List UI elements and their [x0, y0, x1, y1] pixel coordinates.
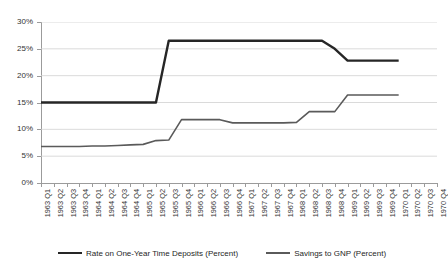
plot-area [41, 22, 437, 183]
x-axis: 1963 Q11963 Q21963 Q31963 Q41964 Q11964 … [41, 184, 438, 242]
series-lines [41, 22, 437, 183]
x-tick-label: 1967 Q2 [261, 189, 269, 217]
y-tick-mark [37, 22, 41, 23]
x-tick-label: 1967 Q4 [287, 189, 295, 217]
x-tick-mark [156, 184, 157, 187]
y-tick-label: 30% [17, 18, 33, 26]
y-tick-mark [37, 183, 41, 184]
x-tick-mark [348, 184, 349, 187]
x-tick-label: 1967 Q3 [274, 189, 282, 217]
legend-label: Rate on One-Year Time Deposits (Percent) [86, 249, 238, 258]
x-tick-mark [437, 184, 438, 187]
x-tick-mark [309, 184, 310, 187]
x-tick-label: 1964 Q2 [108, 189, 116, 217]
x-tick-mark [54, 184, 55, 187]
x-tick-label: 1963 Q4 [82, 189, 90, 217]
y-tick-label: 15% [17, 99, 33, 107]
x-tick-label: 1969 Q3 [376, 189, 384, 217]
y-tick-mark [37, 49, 41, 50]
legend-line-icon [266, 252, 290, 254]
x-tick-label: 1968 Q2 [312, 189, 320, 217]
x-tick-label: 1964 Q1 [95, 189, 103, 217]
x-tick-mark [411, 184, 412, 187]
x-tick-label: 1970 Q1 [402, 189, 410, 217]
x-tick-mark [79, 184, 80, 187]
x-tick-mark [399, 184, 400, 187]
x-tick-mark [233, 184, 234, 187]
x-tick-mark [245, 184, 246, 187]
x-tick-mark [424, 184, 425, 187]
x-tick-mark [296, 184, 297, 187]
x-tick-mark [118, 184, 119, 187]
y-tick-mark [37, 129, 41, 130]
x-tick-label: 1966 Q4 [236, 189, 244, 217]
x-tick-label: 1969 Q4 [389, 189, 397, 217]
x-tick-mark [207, 184, 208, 187]
x-tick-label: 1969 Q1 [351, 189, 359, 217]
x-tick-mark [386, 184, 387, 187]
x-tick-label: 1966 Q1 [197, 189, 205, 217]
x-tick-mark [169, 184, 170, 187]
x-tick-mark [360, 184, 361, 187]
x-tick-mark [335, 184, 336, 187]
x-tick-label: 1965 Q4 [185, 189, 193, 217]
y-tick-mark [37, 156, 41, 157]
x-tick-mark [258, 184, 259, 187]
x-tick-mark [220, 184, 221, 187]
y-tick-label: 5% [21, 152, 33, 160]
x-tick-mark [271, 184, 272, 187]
x-tick-label: 1964 Q3 [121, 189, 129, 217]
y-tick-label: 10% [17, 125, 33, 133]
legend-item-rate-on-one-year-time-deposits[interactable]: Rate on One-Year Time Deposits (Percent) [58, 249, 238, 258]
x-tick-label: 1970 Q2 [414, 189, 422, 217]
x-tick-label: 1969 Q2 [363, 189, 371, 217]
x-tick-mark [194, 184, 195, 187]
x-tick-label: 1965 Q3 [172, 189, 180, 217]
x-tick-label: 1964 Q4 [133, 189, 141, 217]
x-tick-label: 1965 Q1 [146, 189, 154, 217]
chart-legend: Rate on One-Year Time Deposits (Percent)… [0, 246, 444, 260]
x-tick-label: 1966 Q2 [210, 189, 218, 217]
x-tick-mark [105, 184, 106, 187]
y-tick-label: 0% [21, 179, 33, 187]
x-tick-mark [322, 184, 323, 187]
x-tick-label: 1970 Q3 [427, 189, 435, 217]
x-tick-label: 1967 Q1 [248, 189, 256, 217]
y-tick-mark [37, 76, 41, 77]
x-tick-label: 1968 Q1 [299, 189, 307, 217]
y-axis: 0%5%10%15%20%25%30% [0, 0, 37, 190]
series-line-0 [41, 41, 399, 103]
x-tick-label: 1970 Q4 [440, 189, 448, 217]
x-tick-label: 1963 Q3 [70, 189, 78, 217]
x-tick-mark [41, 184, 42, 187]
x-tick-label: 1966 Q3 [223, 189, 231, 217]
x-tick-label: 1968 Q3 [325, 189, 333, 217]
x-tick-mark [130, 184, 131, 187]
x-tick-label: 1965 Q2 [159, 189, 167, 217]
x-tick-label: 1963 Q1 [44, 189, 52, 217]
x-tick-mark [92, 184, 93, 187]
x-tick-mark [182, 184, 183, 187]
legend-label: Savings to GNP (Percent) [294, 249, 386, 258]
y-tick-label: 20% [17, 72, 33, 80]
legend-item-savings-to-gnp[interactable]: Savings to GNP (Percent) [266, 249, 386, 258]
x-tick-mark [67, 184, 68, 187]
x-tick-mark [373, 184, 374, 187]
x-tick-mark [143, 184, 144, 187]
x-tick-label: 1963 Q2 [57, 189, 65, 217]
y-tick-mark [37, 103, 41, 104]
x-tick-label: 1968 Q4 [338, 189, 346, 217]
x-tick-mark [284, 184, 285, 187]
legend-line-icon [58, 252, 82, 254]
y-tick-label: 25% [17, 45, 33, 53]
